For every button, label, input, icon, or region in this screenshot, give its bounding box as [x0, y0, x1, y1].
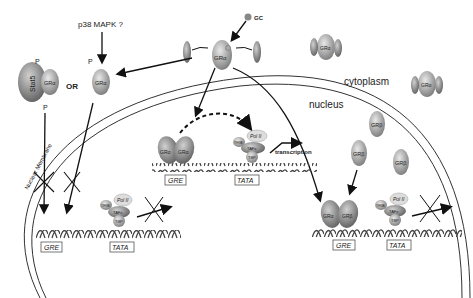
svg-text:TAFs: TAFs	[389, 209, 398, 214]
cytoplasm-label: cytoplasm	[344, 76, 389, 87]
svg-text:TATA: TATA	[237, 177, 254, 184]
svg-text:GRα: GRα	[160, 149, 171, 155]
left-gene-unit: GRE TATA Pol II TFIIB TAFs TBP	[36, 194, 181, 252]
svg-text:TATA: TATA	[389, 242, 406, 249]
svg-text:Pol II: Pol II	[393, 196, 405, 202]
svg-text:GRα: GRα	[44, 80, 56, 86]
svg-text:GRα: GRα	[323, 213, 334, 219]
svg-text:GRβ: GRβ	[395, 160, 406, 166]
svg-text:GRE: GRE	[44, 244, 60, 251]
svg-text:GRα: GRα	[320, 45, 331, 51]
phospho-gr-alpha: GRα P	[88, 58, 110, 95]
svg-text:P: P	[88, 58, 93, 65]
gr-alpha-hsp-complex-right: GRα GRα	[310, 34, 443, 97]
svg-text:TFIIB: TFIIB	[234, 141, 243, 145]
svg-text:GRα: GRα	[95, 80, 107, 86]
svg-text:P: P	[43, 104, 48, 111]
gc-ligand: GC	[232, 14, 264, 41]
or-label: OR	[66, 82, 78, 91]
svg-text:GRβ: GRβ	[371, 122, 382, 128]
svg-text:TFIIB: TFIIB	[376, 204, 385, 208]
right-gene-unit: GRα GRβ GRE TATA Pol II TFIIB TAFs TBP	[312, 193, 462, 250]
svg-text:GRα: GRα	[214, 55, 227, 61]
svg-text:Stat5: Stat5	[29, 76, 36, 92]
stat5-gr-alpha: Stat5 GRα P P	[18, 58, 59, 111]
transcription-label: transcription	[275, 149, 312, 155]
svg-text:Pol II: Pol II	[117, 197, 129, 203]
svg-text:P: P	[35, 58, 40, 65]
gr-signaling-diagram: Nuclear Membrane GC GRα p38 MAPK ? Stat5…	[0, 0, 473, 298]
svg-text:Pol II: Pol II	[250, 133, 262, 139]
svg-text:GRα: GRα	[421, 82, 432, 88]
svg-text:GRE: GRE	[168, 177, 184, 184]
svg-text:TAFs: TAFs	[247, 146, 256, 151]
svg-text:TAFs: TAFs	[113, 210, 122, 215]
svg-text:TBP: TBP	[248, 155, 256, 160]
svg-text:GRE: GRE	[336, 242, 352, 249]
svg-text:GRβ: GRβ	[353, 151, 364, 157]
svg-text:TFIIB: TFIIB	[101, 204, 110, 208]
svg-text:GRβ: GRβ	[342, 213, 353, 219]
svg-text:GRα: GRα	[178, 149, 189, 155]
middle-gene-unit: GRα GRα GRE Pol II TFIIB TAFs TBP TATA t…	[152, 114, 317, 185]
svg-text:TBP: TBP	[391, 218, 399, 223]
svg-text:TBP: TBP	[115, 219, 123, 224]
gr-alpha-hsp-complex: GRα	[183, 40, 261, 70]
gr-beta-proteins: GRβ GRβ GRβ	[351, 111, 409, 175]
p38-mapk-label: p38 MAPK ?	[78, 20, 123, 29]
svg-text:TATA: TATA	[112, 244, 129, 251]
svg-text:GC: GC	[254, 15, 264, 21]
nucleus-label: nucleus	[309, 99, 343, 110]
